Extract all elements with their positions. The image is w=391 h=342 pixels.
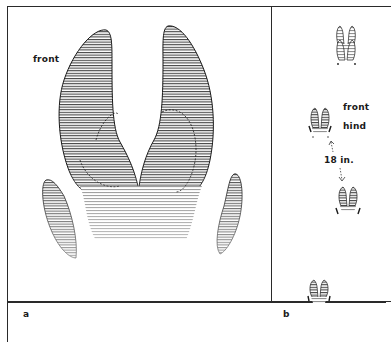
large-hoof-print [40,20,250,265]
panel-label-a: a [23,310,29,319]
panel-label-b: b [283,310,290,319]
track-4 [308,280,330,303]
front-label-a: front [33,55,59,64]
front-label-b: front [343,103,369,112]
stride-length-label: 18 in. [324,156,354,165]
track-3-hind [336,187,360,214]
track-2-front-hind [309,108,331,138]
hind-label-b: hind [343,122,366,131]
track-1-overlapping [337,26,356,65]
